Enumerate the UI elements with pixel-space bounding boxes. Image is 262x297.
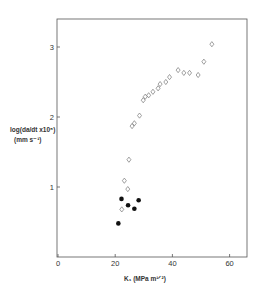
y-axis-label-line1: log(da/dt x10⁵) (10, 126, 55, 134)
open-diamond-marker (120, 207, 124, 212)
open-diamond-marker (196, 72, 200, 77)
open-diamond-marker (210, 42, 214, 47)
filled-circle-marker (116, 221, 121, 226)
open-diamond-marker (164, 79, 168, 84)
open-diamond-marker (176, 68, 180, 73)
open-diamond-marker (138, 113, 142, 118)
plot-frame (57, 19, 247, 257)
open-diamond-marker (168, 75, 172, 80)
filled-circle-marker (136, 198, 141, 203)
open-diamond-marker (126, 187, 130, 192)
x-tick-label: 60 (225, 259, 233, 268)
open-diamond-marker (127, 157, 131, 162)
y-axis-ticks: 123 (50, 43, 60, 192)
x-tick-label: 40 (168, 259, 176, 268)
data-points (116, 42, 214, 226)
y-axis-label-line2: (mm s⁻¹) (14, 136, 41, 144)
filled-circle-marker (126, 203, 131, 208)
x-tick-label: 20 (111, 259, 119, 268)
x-axis-label: K₁ (MPa m¹ᐟ²) (124, 275, 166, 283)
filled-circle-marker (119, 197, 124, 202)
y-tick-label: 2 (50, 113, 54, 122)
scatter-plot: 0204060 123 log(da/dt x10⁵) (mm s⁻¹) K₁ … (0, 0, 262, 297)
filled-circle-marker (132, 206, 137, 211)
y-tick-label: 1 (50, 183, 54, 192)
open-diamond-marker (151, 89, 155, 94)
open-diamond-marker (122, 178, 126, 183)
open-diamond-marker (182, 70, 186, 75)
y-tick-label: 3 (50, 43, 54, 52)
open-diamond-marker (202, 59, 206, 64)
x-axis-ticks: 0204060 (56, 254, 234, 268)
x-tick-label: 0 (56, 259, 60, 268)
open-diamond-marker (188, 70, 192, 75)
